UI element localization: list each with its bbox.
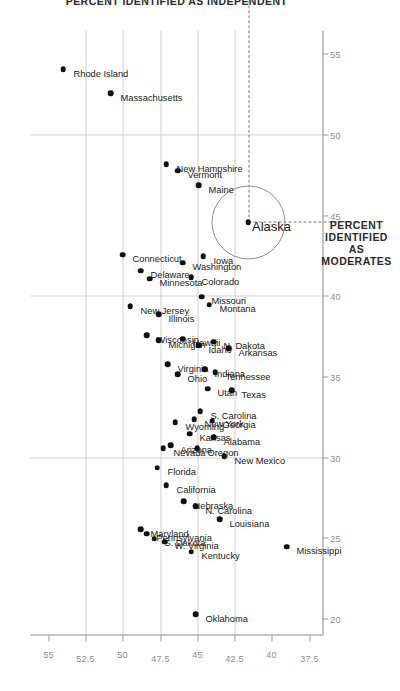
y-axis-tick (122, 635, 123, 641)
data-point[interactable] (161, 539, 167, 545)
data-point[interactable] (181, 498, 187, 504)
data-point-label: Wisconsin (151, 297, 161, 339)
y-axis-tick (85, 635, 86, 641)
y-axis-tick-label: 37.5 (299, 653, 317, 663)
data-point-label: Colorado (196, 243, 206, 281)
data-point[interactable] (194, 445, 200, 451)
data-point-label: Alaska (244, 187, 259, 226)
y-axis-tick-label: 45 (192, 649, 202, 659)
data-point-label: Tennessee (220, 331, 230, 376)
y-axis-tick-label: 52.5 (76, 653, 94, 663)
data-point-label: Oregon (202, 421, 212, 452)
data-point[interactable] (196, 182, 202, 188)
data-point[interactable] (179, 260, 185, 266)
x-axis-tick-label: 50 (330, 130, 340, 140)
y-axis-tick (271, 635, 272, 641)
data-point-label: Massachusetts (115, 35, 125, 97)
y-axis-tick-label: 50 (117, 649, 127, 659)
y-axis-tick (48, 635, 49, 641)
data-point[interactable] (137, 526, 143, 532)
x-axis-tick (322, 134, 328, 135)
data-point[interactable] (163, 482, 169, 488)
gridline-horizontal (122, 30, 123, 635)
data-point[interactable] (216, 516, 222, 522)
data-point[interactable] (188, 274, 194, 280)
data-point-label: Connecticut (127, 209, 137, 258)
data-point[interactable] (188, 548, 194, 554)
data-point[interactable] (143, 531, 149, 537)
data-point-label: Oklahoma (200, 576, 210, 618)
data-point-label: Texas (236, 369, 246, 393)
x-axis-line (322, 30, 323, 635)
data-point-label: Alabama (218, 404, 228, 441)
y-axis-title-line: MODERATES (321, 254, 391, 266)
x-axis-tick (322, 537, 328, 538)
x-axis-tick (322, 457, 328, 458)
x-axis-tick-label: 20 (330, 614, 340, 624)
data-point-label: Ohio (182, 358, 192, 378)
data-point-label: Minnesota (154, 240, 164, 283)
data-point-label: Montana (214, 272, 224, 308)
chart-canvas: 202530354045505537.54042.54547.55052.555… (0, 0, 400, 691)
y-axis-line (30, 634, 322, 635)
rotated-figure: 202530354045505537.54042.54547.55052.555… (0, 0, 400, 691)
data-point[interactable] (163, 161, 169, 167)
data-point[interactable] (193, 611, 199, 617)
data-point[interactable] (206, 301, 212, 307)
y-axis-tick (160, 635, 161, 641)
x-axis-tick-label: 55 (330, 49, 340, 59)
data-point[interactable] (199, 293, 205, 299)
y-axis-tick-label: 40 (266, 649, 276, 659)
data-point[interactable] (196, 342, 202, 348)
x-axis-tick (322, 618, 328, 619)
data-point[interactable] (155, 337, 161, 343)
data-point[interactable] (146, 276, 152, 282)
data-point-label: Maine (203, 164, 213, 189)
data-point[interactable] (108, 90, 114, 96)
data-point-label: Rhode Island (68, 18, 78, 73)
data-point[interactable] (175, 371, 181, 377)
y-axis-tick (309, 635, 310, 641)
data-point-label: W. Virginia (169, 501, 179, 545)
data-point[interactable] (228, 387, 234, 393)
gridline-horizontal (85, 30, 86, 635)
y-axis-tick (197, 635, 198, 641)
data-point-label: S. Dakota (159, 501, 169, 542)
y-axis-title-line: IDENTIFIED (321, 230, 391, 242)
x-axis-tick-label: 40 (330, 291, 340, 301)
data-point-label: Indiana (209, 342, 219, 373)
data-point[interactable] (120, 251, 126, 257)
y-axis-title-line: AS (321, 242, 391, 254)
y-axis-title: PERCENTIDENTIFIEDASMODERATES (321, 218, 391, 266)
data-point[interactable] (175, 168, 181, 174)
data-point-label: Iowa (208, 240, 218, 260)
data-point-label: Mississippi (291, 505, 301, 550)
data-point[interactable] (164, 361, 170, 367)
data-point[interactable] (151, 535, 157, 541)
y-axis-tick (234, 635, 235, 641)
data-point[interactable] (200, 253, 206, 259)
data-point-label: California (171, 450, 181, 489)
y-axis-title-line: PERCENT (321, 218, 391, 230)
data-point-label: Arkansas (233, 313, 243, 352)
data-point[interactable] (154, 464, 160, 470)
data-point-label: Louisiana (224, 483, 234, 523)
y-axis-tick-label: 47.5 (150, 653, 168, 663)
data-point[interactable] (193, 503, 199, 509)
plot-area: 202530354045505537.54042.54547.55052.555… (30, 30, 322, 635)
data-point-label: Hawaii (187, 314, 197, 342)
data-point-label: N. Carolina (200, 463, 210, 510)
data-point-label: New Jersey (135, 261, 145, 310)
x-axis-tick-label: 35 (330, 372, 340, 382)
x-axis-tick (322, 53, 328, 54)
x-axis-tick-label: 30 (330, 453, 340, 463)
data-point[interactable] (60, 66, 66, 72)
data-point[interactable] (143, 332, 149, 338)
x-axis-tick (322, 376, 328, 377)
data-point-label: Vermont (182, 140, 192, 175)
data-point[interactable] (283, 543, 289, 549)
gridline-vertical (30, 295, 322, 296)
data-point-label: New Hampshire (171, 102, 181, 168)
data-point[interactable] (127, 303, 133, 309)
y-axis-tick-label: 55 (43, 649, 53, 659)
